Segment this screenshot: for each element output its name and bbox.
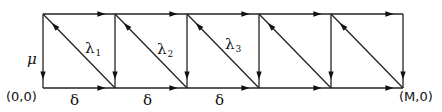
right-arrow-icon [97,11,105,16]
right-arrow-icon [97,85,105,90]
lambda-3-symbol: λ [225,35,235,53]
down-arrow-icon [184,71,189,79]
right-arrow-icon [313,11,321,16]
right-arrow-icon [241,11,249,16]
right-arrow-icon [169,11,177,16]
right-arrow-icon [241,85,249,90]
lambda-label-3: λ3 [225,37,241,52]
right-arrow-icon [169,85,177,90]
lambda-2-symbol: λ [157,40,167,58]
delta-label-2: δ [143,93,152,108]
lambda-label-1: λ1 [85,41,101,56]
right-arrow-icon [385,85,393,90]
mu-label: μ [27,52,37,67]
origin-label: (0,0) [6,90,37,103]
delta-label-3: δ [215,93,224,108]
down-arrow-icon [328,71,333,79]
lambda-1-subscript: 1 [96,48,102,58]
lambda-label-2: λ2 [157,42,173,57]
delta-label-1: δ [70,93,79,108]
lambda-3-subscript: 3 [236,44,242,54]
down-arrow-icon [400,71,405,79]
lambda-2-subscript: 2 [168,49,174,59]
down-arrow-icon [112,71,117,79]
right-arrow-icon [313,85,321,90]
down-arrow-icon [40,71,45,79]
end-label: (M,0) [399,90,433,103]
down-arrow-icon [256,71,261,79]
right-arrow-icon [385,11,393,16]
lambda-1-symbol: λ [85,39,95,57]
